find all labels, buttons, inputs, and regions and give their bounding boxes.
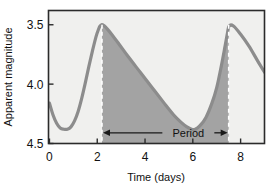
x-tick-label-4: 4: [142, 150, 149, 164]
y-tick-label-3.5: 3.5: [27, 18, 44, 32]
x-tick-label-8: 8: [237, 150, 244, 164]
y-axis-title: Apparent magnitude: [2, 27, 14, 126]
light-curve-chart: Period 3.54.04.5 02468 Time (days) Appar…: [0, 0, 269, 186]
x-tick-label-0: 0: [46, 150, 53, 164]
x-axis-title: Time (days): [127, 171, 185, 183]
y-axis-tick-labels: 3.54.04.5: [27, 18, 44, 151]
x-tick-label-2: 2: [94, 150, 101, 164]
x-axis-tick-labels: 02468: [46, 150, 244, 164]
y-tick-label-4.0: 4.0: [27, 78, 44, 92]
y-tick-label-4.5: 4.5: [27, 137, 44, 151]
period-label: Period: [172, 127, 204, 139]
x-tick-label-6: 6: [189, 150, 196, 164]
